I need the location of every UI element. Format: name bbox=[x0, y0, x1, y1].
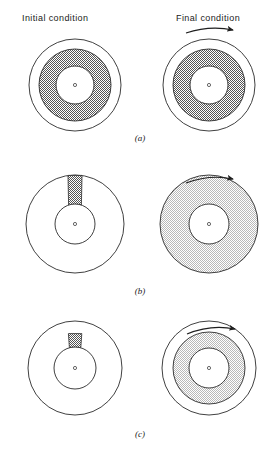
panel-label-b: (b) bbox=[120, 286, 160, 296]
dark-wedge-marker bbox=[68, 334, 81, 348]
panel-label-c: (c) bbox=[120, 429, 160, 439]
center-dot bbox=[73, 222, 76, 225]
panel-a-final bbox=[163, 28, 255, 131]
panel-c-initial bbox=[28, 321, 122, 415]
concentric-circles-diagram bbox=[0, 0, 280, 454]
figure-container: Initial condition Final condition bbox=[0, 0, 280, 454]
center-dot bbox=[207, 222, 210, 225]
rotation-arrow-icon bbox=[186, 28, 233, 33]
panel-b-initial bbox=[26, 175, 124, 273]
panel-b-final bbox=[160, 175, 258, 273]
center-dot bbox=[207, 83, 210, 86]
panel-a-initial bbox=[29, 39, 121, 131]
center-dot bbox=[73, 366, 76, 369]
panel-label-a: (a) bbox=[120, 133, 160, 143]
center-dot bbox=[73, 83, 76, 86]
center-dot bbox=[207, 366, 210, 369]
dark-wedge-marker bbox=[68, 175, 82, 205]
panel-c-final bbox=[162, 321, 256, 415]
